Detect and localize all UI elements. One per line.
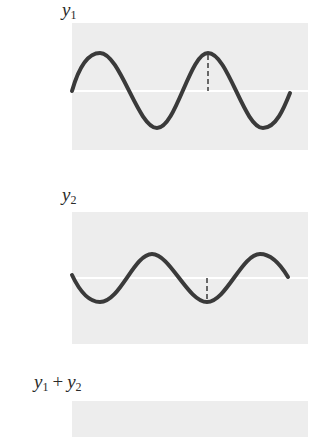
sum-label: y1+y2 xyxy=(34,372,82,393)
sum-label-a-sub: 1 xyxy=(42,380,48,394)
y2-label-sub: 2 xyxy=(70,193,76,207)
y2-label: y2 xyxy=(62,185,76,206)
sum-plus-sign: + xyxy=(52,371,63,392)
sum-wave-panel xyxy=(72,401,308,437)
y1-label: y1 xyxy=(62,0,76,21)
y2-wave-graphic xyxy=(72,212,308,344)
y1-wave-graphic xyxy=(72,23,308,150)
y2-wave-panel xyxy=(72,212,308,344)
sum-label-b-sub: 2 xyxy=(76,380,82,394)
y1-wave-panel xyxy=(72,23,308,150)
y1-label-sub: 1 xyxy=(70,8,76,22)
sum-label-b-main: y xyxy=(67,371,75,392)
